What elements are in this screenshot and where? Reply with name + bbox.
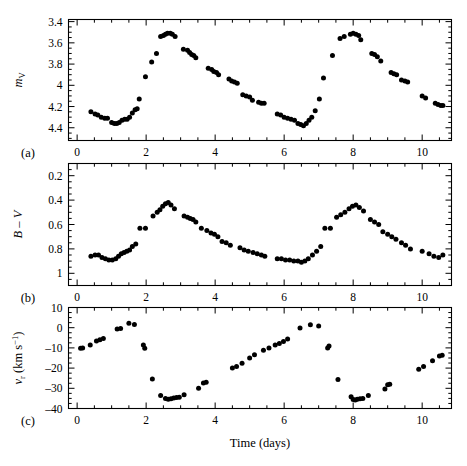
ytick-label-c: –10 [44,342,63,354]
data-point [387,382,392,387]
ytick-label-a: 3.6 [48,37,63,49]
data-point [234,364,239,369]
data-points-a [88,31,445,128]
data-point [309,115,314,120]
panel-c: 100–10–20–30–400246810(c) [21,302,451,428]
data-point [266,345,271,350]
ytick-label-a: 4 [57,79,63,91]
data-point [356,33,361,38]
data-point [380,229,385,234]
cepheid-variable-figure: 3.43.63.844.24.40246810(a)0.20.40.60.810… [0,0,467,466]
data-point [423,96,428,101]
data-point [132,322,137,327]
ylabel-panel-a: mV [11,72,27,88]
figure-svg: 3.43.63.844.24.40246810(a)0.20.40.60.810… [0,0,467,466]
xtick-label: 6 [281,414,287,426]
data-point [101,336,106,341]
data-point [199,226,204,231]
data-point [321,75,326,80]
data-point [342,210,347,215]
data-point [151,213,156,218]
data-point [430,358,435,363]
data-point [235,81,240,86]
data-point [193,220,198,225]
plot-frame-b [69,164,452,286]
data-point [88,343,93,348]
data-point [314,249,319,254]
data-point [196,386,201,391]
data-point [168,202,173,207]
data-point [317,97,322,102]
data-point [416,367,421,372]
data-point [408,246,413,251]
xtick-label: 10 [416,146,428,158]
data-point [310,253,315,258]
data-point [149,59,154,64]
data-point [240,361,245,366]
svg-text:mV: mV [11,72,27,88]
data-point [316,324,321,329]
data-point [405,80,410,85]
data-point [308,322,313,327]
data-point [360,396,365,401]
data-point [285,337,290,342]
xtick-label: 10 [416,291,428,303]
svg-text:B – V: B – V [11,209,25,238]
data-point [193,55,198,60]
data-point [342,34,347,39]
data-point [440,103,445,108]
data-point [142,346,147,351]
ylabel-panel-c: vr (km s−1) [10,332,27,385]
ylabel-panel-b: B – V [11,209,25,238]
data-point [80,345,85,350]
data-point [252,352,257,357]
panel-a: 3.43.63.844.24.40246810(a) [21,16,451,160]
ytick-label-b: 1 [57,267,63,279]
data-point [393,237,398,242]
data-point [330,53,335,58]
data-point [137,226,142,231]
data-point [215,234,220,239]
xtick-label: 8 [350,291,356,303]
ytick-label-b: 0.6 [48,219,63,231]
data-point [246,249,251,254]
ytick-label-a: 4.2 [48,101,63,113]
ytick-label-c: –20 [44,362,63,374]
data-point [327,343,332,348]
data-point [375,54,380,59]
xtick-label: 0 [74,414,80,426]
data-point [173,34,178,39]
plot-frame-a [69,20,452,141]
data-point [261,348,266,353]
ytick-label-c: –30 [44,382,63,394]
xtick-label: 4 [212,291,218,303]
ytick-label-c: –40 [44,403,63,415]
data-point [182,392,187,397]
data-point [431,254,436,259]
panel-label-a: (a) [21,146,35,160]
data-point [216,72,221,77]
data-point [247,356,252,361]
svg-text:vr (km s−1): vr (km s−1) [10,332,27,385]
data-point [154,51,159,56]
xtick-label: 2 [143,291,149,303]
ytick-label-a: 3.4 [48,16,63,28]
data-point [440,253,445,258]
xtick-label: 4 [212,146,218,158]
data-point [228,243,233,248]
data-point [127,115,132,120]
data-point [158,393,163,398]
data-point [306,256,311,261]
ytick-label-b: 0.8 [48,243,63,255]
data-point [335,377,340,382]
data-point [137,97,142,102]
data-point [133,242,138,247]
data-point [394,72,399,77]
ytick-label-c: 10 [51,302,63,314]
data-point [135,106,140,111]
panel-b: 0.20.40.60.810246810(b) [21,164,452,305]
data-point [366,393,371,398]
data-point [361,209,366,214]
xtick-label: 0 [74,291,80,303]
data-point [262,254,267,259]
